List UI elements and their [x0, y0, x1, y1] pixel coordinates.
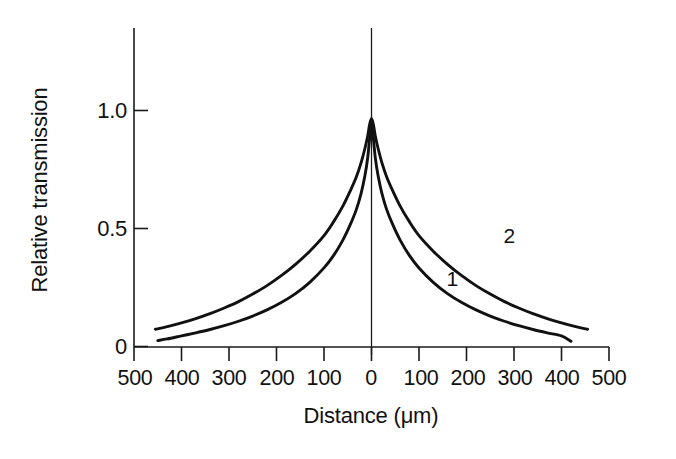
- y-tick-label-1.0: 1.0: [97, 98, 127, 123]
- x-axis-title: Distance (μm): [304, 403, 439, 428]
- x-tick-marks: [134, 347, 609, 361]
- x-tick-label--100: 100: [307, 366, 342, 390]
- x-tick-label--500: 500: [118, 366, 153, 390]
- curve-label-1: 1: [447, 267, 458, 290]
- y-tick-marks: [134, 111, 148, 347]
- y-axis-title: Relative transmission: [27, 88, 52, 293]
- x-tick-label-500: 500: [592, 366, 627, 390]
- x-tick-labels: 500 400 300 200 100 0 100 200 300 400 50…: [118, 366, 627, 390]
- x-tick-label-0: 0: [365, 366, 377, 390]
- x-tick-label--200: 200: [260, 366, 295, 390]
- y-tick-label-0: 0: [115, 334, 127, 359]
- y-tick-label-0.5: 0.5: [97, 216, 127, 241]
- transmission-chart: 1.0 0.5 0 500 400 300 200 100 0 100 200 …: [0, 0, 676, 459]
- x-tick-label-100: 100: [404, 366, 439, 390]
- x-tick-label--400: 400: [165, 366, 200, 390]
- curve-label-2: 2: [504, 224, 515, 247]
- x-tick-label-300: 300: [498, 366, 533, 390]
- x-tick-label-400: 400: [545, 366, 580, 390]
- x-tick-label-200: 200: [451, 366, 486, 390]
- figure-container: 1.0 0.5 0 500 400 300 200 100 0 100 200 …: [0, 0, 676, 459]
- y-tick-labels: 1.0 0.5 0: [97, 98, 127, 359]
- x-tick-label--300: 300: [212, 366, 247, 390]
